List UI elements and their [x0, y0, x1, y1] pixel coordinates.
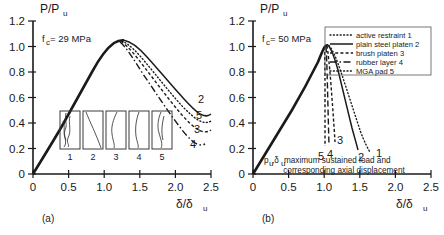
panel-a-xtick-2: 1.0	[96, 181, 112, 193]
panel-b-ytick-2: 0.4	[229, 117, 246, 129]
panel-b-y-axis-title: P/P u	[260, 2, 287, 18]
legend-item-active-restraint: active restraint 1	[330, 31, 412, 40]
panel-a-specimen-number-3: 3	[113, 152, 118, 162]
legend-item-rubber-layer: rubber layer 4	[330, 58, 403, 67]
legend-label-rubber-layer: rubber layer 4	[356, 58, 403, 67]
panel-b-y-ticks: 0 0.2 0.4 0.6 0.8 1.0 1.2	[229, 15, 256, 180]
svg-text:= 29 MPa: = 29 MPa	[50, 33, 92, 44]
panel-b-xtick-0: 0	[250, 181, 256, 193]
panel-b-ytick-4: 0.8	[229, 66, 245, 78]
panel-a-xtick-5: 2.5	[203, 181, 219, 193]
legend-item-plain-steel-platen: plain steel platen 2	[330, 40, 419, 49]
svg-text:u: u	[423, 204, 427, 213]
svg-text:u: u	[283, 9, 287, 18]
svg-text:δ/δ: δ/δ	[176, 197, 193, 211]
panel-b-curve-4-rubber-layer	[326, 47, 329, 146]
svg-text:= 50 MPa: = 50 MPa	[270, 33, 312, 44]
legend-item-brush-platen: brush platen 3	[330, 49, 404, 58]
panel-a-ytick-1: 0.2	[9, 143, 25, 155]
panel-b-curve-label-3: 3	[337, 134, 343, 146]
panel-b-condition-label: f c = 50 MPa	[262, 33, 312, 47]
panel-a-specimen-number-5: 5	[159, 152, 164, 162]
panel-a-specimen-number-4: 4	[136, 152, 141, 162]
panel-b-ytick-5: 1.0	[229, 41, 245, 53]
panel-a-specimen-number-1: 1	[67, 152, 72, 162]
legend-label-brush-platen: brush platen 3	[356, 49, 404, 58]
panel-b-xtick-3: 1.5	[352, 181, 368, 193]
svg-text:u: u	[203, 204, 207, 213]
svg-text:u: u	[63, 9, 67, 18]
panel-b-xtick-5: 2.5	[423, 181, 439, 193]
panel-b-ytick-0: 0	[239, 168, 245, 180]
legend-label-active-restraint: active restraint 1	[356, 31, 412, 40]
panel-a-x-axis-title: δ/δ u	[176, 197, 207, 213]
panel-b-xtick-4: 2.0	[387, 181, 403, 193]
panel-a-y-axis-title: P/P u	[40, 2, 67, 18]
panel-b-x-axis-title: δ/δ u	[396, 197, 427, 213]
svg-text:maximum sustained load and: maximum sustained load and	[284, 156, 391, 165]
panel-a-ytick-6: 1.2	[9, 15, 25, 27]
panel-a-curve-4-rubber-layer	[120, 42, 205, 145]
legend-label-mga-pad: MGA pad 5	[356, 67, 394, 76]
panel-b-xtick-1: 0.5	[281, 181, 297, 193]
panel-a-xtick-3: 1.5	[132, 181, 148, 193]
panel-a-xtick-4: 2.0	[167, 181, 183, 193]
panel-a-ytick-3: 0.6	[9, 92, 25, 104]
panel-a-ytick-5: 1.0	[9, 41, 25, 53]
panel-b-ytick-3: 0.6	[229, 92, 245, 104]
panel-a-ytick-0: 0	[19, 168, 25, 180]
panel-b: 0 0.2 0.4 0.6 0.8 1.0 1.2 0 0.5 1.0 1.5 …	[222, 0, 444, 235]
panel-a-curve-ascending	[33, 40, 124, 174]
svg-text:P/P: P/P	[40, 2, 59, 16]
panel-b-curve-ascending	[253, 45, 328, 174]
panel-a-xtick-1: 0.5	[61, 181, 77, 193]
panel-a-condition-label: f c = 29 MPa	[42, 33, 92, 47]
panel-b-ytick-6: 1.2	[229, 15, 245, 27]
panel-b-xtick-2: 1.0	[316, 181, 332, 193]
svg-text:f: f	[262, 33, 265, 44]
svg-text:f: f	[42, 33, 45, 44]
panel-a-curve-label-4: 4	[190, 138, 196, 150]
svg-text:δ/δ: δ/δ	[396, 197, 413, 211]
panel-a-curve-label-5: 5	[196, 109, 202, 121]
panel-a-curve-label-2: 2	[198, 93, 204, 105]
panel-a-label: (a)	[42, 213, 54, 224]
panel-b-label: (b)	[262, 213, 274, 224]
panel-a-xtick-0: 0	[30, 181, 36, 193]
legend-label-plain-steel-platen: plain steel platen 2	[356, 40, 419, 49]
svg-text:P/P: P/P	[260, 2, 279, 16]
panel-a: 0 0.2 0.4 0.6 0.8 1.0 1.2 0 0.5 1.0 1.5 …	[0, 0, 222, 235]
panel-a-y-ticks: 0 0.2 0.4 0.6 0.8 1.0 1.2	[9, 15, 36, 180]
panel-b-ytick-1: 0.2	[229, 143, 245, 155]
panel-b-note: p u ,δ u maximum sustained load and corr…	[264, 156, 405, 175]
panel-a-curve-label-3: 3	[194, 123, 200, 135]
svg-text:corresponding axial displaceme: corresponding axial displacement	[283, 166, 405, 175]
panel-a-specimen-number-2: 2	[90, 152, 95, 162]
svg-text:,δ: ,δ	[272, 156, 279, 165]
panel-a-ytick-4: 0.8	[9, 66, 25, 78]
panel-a-inset-specimens: 1 2 3 4 5	[60, 111, 172, 162]
panel-a-ytick-2: 0.4	[9, 117, 26, 129]
panel-b-legend: active restraint 1 plain steel platen 2 …	[325, 27, 431, 76]
